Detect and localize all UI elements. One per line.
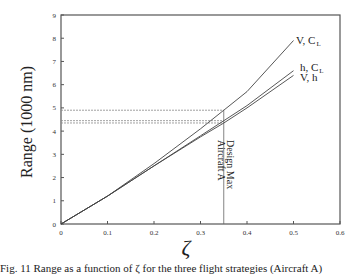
curves [61, 41, 294, 225]
y-tick-label: 1 [53, 197, 57, 205]
x-tick-label: 0.1 [103, 229, 112, 237]
y-tick-label: 2 [53, 174, 57, 182]
curve-v-h [61, 75, 294, 224]
plot-border [61, 15, 340, 224]
y-axis-ticks: 0123456789 [53, 12, 65, 229]
curve-labels: V, CLh, CLV, h [296, 34, 324, 83]
y-tick-label: 6 [53, 81, 57, 89]
reference-lines [61, 110, 224, 224]
x-tick-label: 0.6 [336, 229, 345, 237]
plot-frame [61, 15, 340, 224]
range-vs-zeta-chart: 0123456789 00.10.20.30.40.50.6 V, CLh, C… [0, 0, 358, 262]
y-tick-label: 0 [53, 221, 57, 229]
x-tick-label: 0.5 [289, 229, 298, 237]
y-tick-label: 9 [53, 12, 57, 20]
y-tick-label: 5 [53, 104, 57, 112]
x-axis-title: ζ [182, 235, 193, 260]
x-tick-label: 0.3 [196, 229, 205, 237]
x-axis-ticks: 00.10.20.30.40.50.6 [59, 221, 345, 237]
annotation-aircraft-a: Aircraft A [216, 140, 227, 182]
y-axis-title: Range (1000 nm) [18, 66, 36, 178]
y-tick-label: 8 [53, 35, 57, 43]
x-tick-label: 0.4 [243, 229, 252, 237]
curve-label: V, h [300, 71, 318, 83]
curve-v-c-l [61, 41, 294, 225]
design-max-annotation: Design Max Aircraft A [216, 140, 236, 189]
y-tick-label: 7 [53, 58, 57, 66]
figure-caption: Fig. 11 Range as a function of ζ for the… [0, 262, 358, 274]
y-tick-label: 3 [53, 151, 57, 159]
x-tick-label: 0 [59, 229, 63, 237]
y-tick-label: 4 [53, 128, 57, 136]
curve-label: V, CL [296, 34, 321, 48]
curve-h-c-l [61, 71, 294, 224]
x-tick-label: 0.2 [150, 229, 159, 237]
